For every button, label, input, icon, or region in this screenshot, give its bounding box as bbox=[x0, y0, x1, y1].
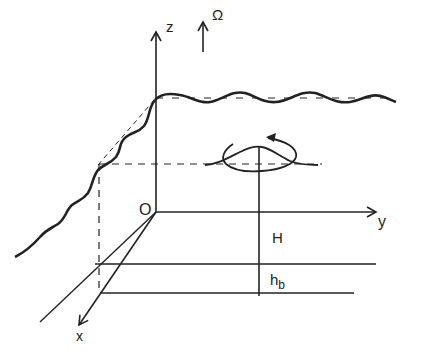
rotation-label: Ω bbox=[212, 6, 223, 23]
x-axis-label: x bbox=[76, 328, 83, 344]
bottom-edge-line bbox=[40, 212, 156, 322]
z-axis-label: z bbox=[166, 18, 174, 35]
y-axis-label: y bbox=[378, 213, 386, 230]
bottom-layer-label: hb bbox=[270, 271, 285, 292]
depth-label-H: H bbox=[272, 229, 283, 246]
bottom-layer-label-main: h bbox=[270, 271, 278, 288]
bump-profile bbox=[205, 147, 318, 165]
eddy-rotation-arrowhead bbox=[266, 133, 276, 142]
origin-label: O bbox=[139, 201, 151, 218]
mean-slope-dashed bbox=[98, 98, 156, 165]
bottom-layer-label-sub: b bbox=[278, 278, 285, 292]
diagram-canvas: z Ω y O x H hb bbox=[0, 0, 441, 353]
x-axis bbox=[79, 212, 156, 325]
free-surface-top bbox=[155, 92, 396, 102]
